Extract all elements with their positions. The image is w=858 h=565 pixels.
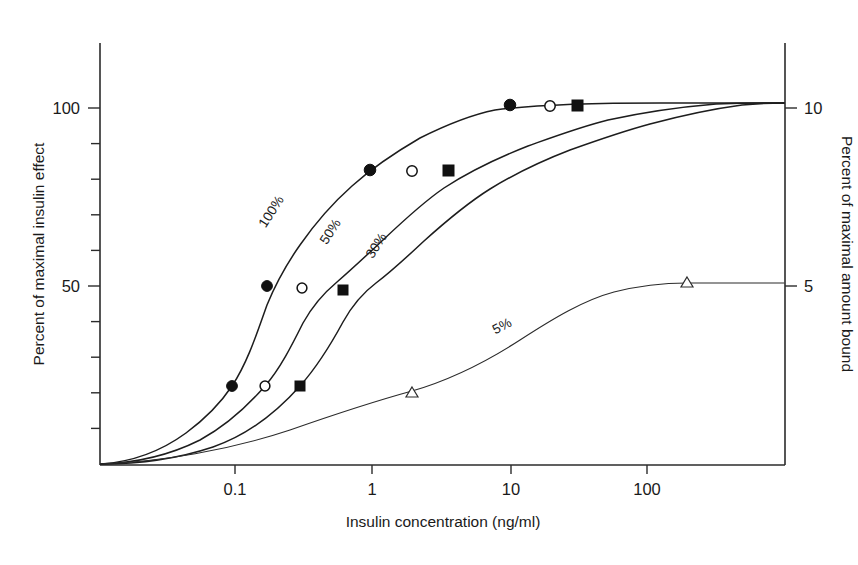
left-tick-label-50: 50 — [62, 277, 80, 295]
series-30pct-markers — [295, 100, 583, 391]
datapoint-50pct-1 — [260, 381, 270, 391]
curve-label-30pct: 30% — [363, 230, 390, 261]
left-axis-ticks — [88, 108, 100, 428]
x-tick-label-100: 100 — [633, 480, 661, 498]
datapoint-30pct-4 — [572, 100, 583, 111]
curve-5pct — [101, 283, 784, 464]
axes-frame — [100, 43, 785, 465]
curve-label-100pct: 100% — [256, 193, 287, 230]
datapoint-30pct-1 — [295, 381, 305, 391]
datapoint-5pct-2 — [681, 277, 693, 287]
right-axis-ticks — [785, 108, 797, 286]
datapoint-50pct-3 — [407, 166, 417, 176]
y-axis-title: Percent of maximal insulin effect — [30, 142, 47, 366]
figure-canvas: 100 50 10 5 0.1 1 10 100 Insulin concent… — [0, 0, 858, 565]
datapoint-100pct-4 — [504, 99, 516, 111]
datapoint-100pct-3 — [364, 164, 376, 176]
chart-svg: 100 50 10 5 0.1 1 10 100 Insulin concent… — [0, 0, 858, 565]
right-tick-label-10: 10 — [804, 99, 822, 117]
series-5pct-markers — [406, 277, 693, 397]
datapoint-30pct-2 — [338, 285, 348, 295]
x-tick-label-10: 10 — [502, 480, 520, 498]
datapoint-100pct-1 — [227, 381, 238, 392]
series-50pct-markers — [260, 101, 555, 391]
right-tick-label-5: 5 — [804, 277, 813, 295]
left-tick-label-100: 100 — [52, 99, 80, 117]
datapoint-30pct-3 — [443, 165, 454, 176]
x-tick-label-1: 1 — [367, 480, 376, 498]
bottom-axis-ticks — [235, 465, 647, 474]
datapoint-50pct-2 — [297, 283, 307, 293]
datapoint-100pct-2 — [262, 281, 273, 292]
datapoint-50pct-4 — [545, 101, 555, 111]
y2-axis-title: Percent of maximal amount bound — [839, 136, 856, 372]
curve-label-5pct: 5% — [490, 315, 514, 337]
x-tick-label-0.1: 0.1 — [224, 480, 247, 498]
curve-label-50pct: 50% — [317, 216, 344, 247]
x-axis-title: Insulin concentration (ng/ml) — [346, 513, 541, 530]
